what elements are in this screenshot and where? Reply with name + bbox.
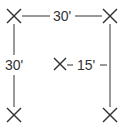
x-marker-bottom-right-icon — [103, 108, 117, 122]
top-dimension-label: 30' — [53, 8, 71, 24]
x-marker-center-icon — [54, 58, 66, 70]
x-marker-bottom-left-icon — [7, 108, 21, 122]
x-marker-top-left-icon — [7, 9, 21, 23]
left-dimension-label: 30' — [5, 57, 23, 73]
x-marker-top-right-icon — [103, 9, 117, 23]
spacing-diagram: 30' 30' 15' — [0, 0, 128, 134]
center-dimension-label: 15' — [77, 57, 95, 73]
